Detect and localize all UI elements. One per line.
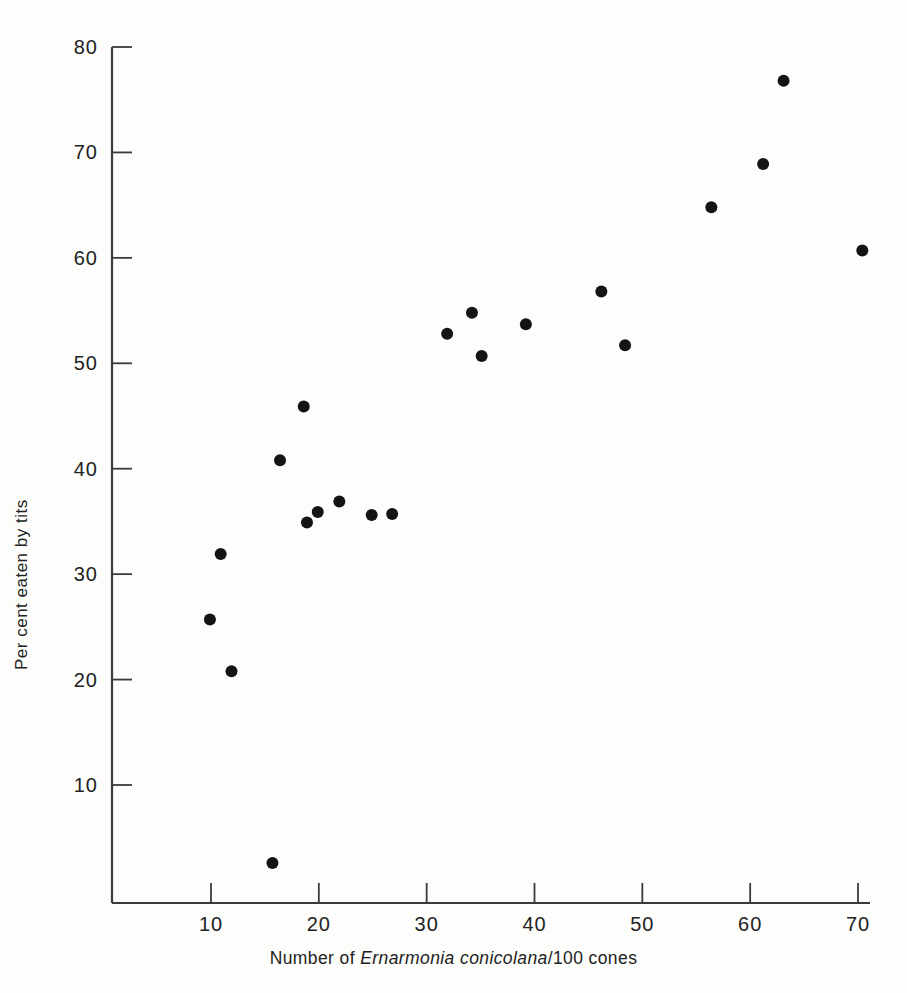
y-tick-label-60: 60 bbox=[74, 247, 98, 269]
data-point bbox=[366, 509, 378, 521]
y-tick-label-20: 20 bbox=[74, 669, 98, 691]
scatter-plot: 102030405060708010203040506070 bbox=[0, 0, 907, 993]
y-axis-label-text: Per cent eaten by tits bbox=[12, 390, 32, 670]
x-tick-label-20: 20 bbox=[307, 913, 331, 935]
data-point bbox=[856, 244, 868, 256]
data-point bbox=[757, 158, 769, 170]
y-tick-label-30: 30 bbox=[74, 563, 98, 585]
data-point bbox=[520, 318, 532, 330]
data-point bbox=[274, 454, 286, 466]
data-point bbox=[619, 339, 631, 351]
data-points bbox=[204, 75, 868, 869]
x-axis-label-prefix: Number of bbox=[270, 948, 361, 968]
data-point bbox=[778, 75, 790, 87]
tick-marks bbox=[112, 47, 858, 903]
x-tick-label-40: 40 bbox=[522, 913, 546, 935]
data-point bbox=[595, 286, 607, 298]
figure-panel: 102030405060708010203040506070 Number of… bbox=[0, 0, 907, 993]
tick-labels: 102030405060708010203040506070 bbox=[74, 36, 870, 935]
x-tick-label-50: 50 bbox=[630, 913, 654, 935]
y-tick-label-10: 10 bbox=[74, 774, 98, 796]
x-tick-label-60: 60 bbox=[738, 913, 762, 935]
x-axis-label-suffix: /100 cones bbox=[548, 948, 638, 968]
x-tick-label-70: 70 bbox=[846, 913, 870, 935]
x-axis-label-species: Ernarmonia conicolana bbox=[360, 948, 547, 968]
axes bbox=[112, 47, 870, 903]
data-point bbox=[312, 506, 324, 518]
data-point bbox=[301, 516, 313, 528]
x-axis-label: Number of Ernarmonia conicolana/100 cone… bbox=[0, 948, 907, 969]
x-tick-label-10: 10 bbox=[199, 913, 223, 935]
data-point bbox=[441, 328, 453, 340]
y-tick-label-80: 80 bbox=[74, 36, 98, 58]
data-point bbox=[476, 350, 488, 362]
data-point bbox=[705, 201, 717, 213]
data-point bbox=[298, 401, 310, 413]
data-point bbox=[386, 508, 398, 520]
y-tick-label-50: 50 bbox=[74, 352, 98, 374]
x-tick-label-30: 30 bbox=[415, 913, 439, 935]
data-point bbox=[225, 665, 237, 677]
data-point bbox=[266, 857, 278, 869]
data-point bbox=[215, 548, 227, 560]
data-point bbox=[204, 613, 216, 625]
data-point bbox=[333, 495, 345, 507]
data-point bbox=[466, 307, 478, 319]
y-tick-label-70: 70 bbox=[74, 141, 98, 163]
y-tick-label-40: 40 bbox=[74, 458, 98, 480]
